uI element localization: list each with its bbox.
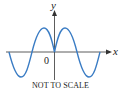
x-axis-arrow-icon	[106, 50, 112, 55]
x-axis-label: x	[112, 45, 118, 57]
y-axis-label: y	[50, 0, 56, 11]
caption: NOT TO SCALE	[0, 81, 121, 90]
origin-label: 0	[44, 55, 49, 66]
